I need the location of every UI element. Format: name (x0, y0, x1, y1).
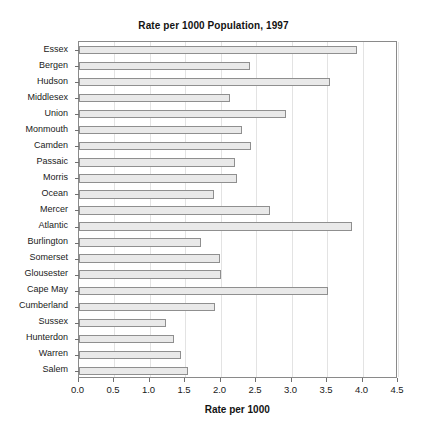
y-axis-tick (75, 210, 79, 211)
bar-row (79, 235, 397, 251)
bar (79, 78, 330, 86)
x-axis-tick (113, 378, 114, 382)
y-axis-tick-label: Warren (0, 348, 73, 358)
y-axis-tick (75, 82, 79, 83)
bar-row (79, 138, 397, 154)
bar (79, 174, 237, 182)
x-axis-tick-label: 4.0 (355, 384, 368, 395)
x-axis-tick (397, 378, 398, 382)
bar (79, 142, 252, 150)
y-axis-tick (75, 291, 79, 292)
bar (79, 110, 286, 118)
y-axis-tick (75, 98, 79, 99)
y-axis-tick (75, 227, 79, 228)
x-axis-tick (220, 378, 221, 382)
bar (79, 190, 215, 198)
bar (79, 254, 220, 262)
y-axis-tick (75, 194, 79, 195)
y-axis-tick-label: Cape May (0, 284, 73, 294)
x-axis: Rate per 1000 0.00.51.01.52.02.53.03.54.… (78, 378, 398, 428)
y-axis-tick-label: Atlantic (0, 220, 73, 230)
x-axis-tick-label: 4.5 (390, 384, 403, 395)
x-axis-tick-label: 0.5 (106, 384, 119, 395)
bar (79, 319, 166, 327)
y-axis-tick (75, 146, 79, 147)
bar-row (79, 74, 397, 90)
y-axis-tick-label: Camden (0, 140, 73, 150)
bar-row (79, 122, 397, 138)
bar-row (79, 154, 397, 170)
x-axis-tick (78, 378, 79, 382)
y-axis-tick (75, 130, 79, 131)
bar (79, 46, 357, 54)
bar-row (79, 363, 397, 379)
bar-row (79, 42, 397, 58)
x-axis-tick-label: 1.0 (142, 384, 155, 395)
y-axis-tick-label: Monmouth (0, 124, 73, 134)
y-axis-tick (75, 114, 79, 115)
y-axis-tick-label: Salem (0, 364, 73, 374)
bar-chart: Rate per 1000 Population, 1997 EssexBerg… (0, 0, 427, 431)
y-axis-tick-label: Middlesex (0, 92, 73, 102)
y-axis-labels: EssexBergenHudsonMiddlesexUnionMonmouthC… (0, 41, 73, 378)
y-axis-tick-label: Essex (0, 44, 73, 54)
bar-row (79, 299, 397, 315)
y-axis-tick-label: Union (0, 108, 73, 118)
y-axis-tick-label: Hudson (0, 76, 73, 86)
bar (79, 126, 242, 134)
bar (79, 158, 235, 166)
y-axis-tick (75, 339, 79, 340)
x-axis-tick (255, 378, 256, 382)
y-axis-tick (75, 323, 79, 324)
bar-row (79, 170, 397, 186)
bar-row (79, 283, 397, 299)
x-axis-tick (291, 378, 292, 382)
bar (79, 367, 188, 375)
x-axis-tick (184, 378, 185, 382)
y-axis-tick-label: Passaic (0, 156, 73, 166)
y-axis-tick-label: Hunterdon (0, 332, 73, 342)
bar-row (79, 202, 397, 218)
bar (79, 303, 215, 311)
bar (79, 222, 352, 230)
y-axis-tick (75, 355, 79, 356)
x-axis-tick-label: 2.0 (213, 384, 226, 395)
x-axis-tick-label: 0.0 (71, 384, 84, 395)
x-axis-title: Rate per 1000 (78, 404, 398, 415)
y-axis-tick (75, 66, 79, 67)
bar-row (79, 219, 397, 235)
y-axis-tick-label: Morris (0, 172, 73, 182)
plot-area (78, 41, 398, 378)
bar (79, 206, 271, 214)
bar-row (79, 267, 397, 283)
y-axis-tick-label: Sussex (0, 316, 73, 326)
bar (79, 238, 202, 246)
y-axis-tick-label: Cumberland (0, 300, 73, 310)
x-axis-tick-label: 1.5 (177, 384, 190, 395)
y-axis-tick-label: Somerset (0, 252, 73, 262)
y-axis-tick (75, 178, 79, 179)
y-axis-tick (75, 307, 79, 308)
bar-row (79, 106, 397, 122)
y-axis-tick (75, 50, 79, 51)
bar-row (79, 90, 397, 106)
bar-row (79, 347, 397, 363)
gridline (398, 42, 399, 377)
y-axis-tick (75, 275, 79, 276)
y-axis-tick (75, 243, 79, 244)
bar (79, 287, 328, 295)
y-axis-tick-label: Burlington (0, 236, 73, 246)
x-axis-tick-label: 3.0 (284, 384, 297, 395)
bar-row (79, 331, 397, 347)
x-axis-tick (149, 378, 150, 382)
bar-row (79, 315, 397, 331)
bar (79, 270, 221, 278)
y-axis-tick-label: Bergen (0, 60, 73, 70)
bars-layer (79, 42, 397, 377)
y-axis-tick-label: Glousester (0, 268, 73, 278)
y-axis-tick (75, 371, 79, 372)
x-axis-tick-label: 3.5 (319, 384, 332, 395)
y-axis-tick-label: Mercer (0, 204, 73, 214)
bar (79, 94, 230, 102)
bar (79, 351, 181, 359)
